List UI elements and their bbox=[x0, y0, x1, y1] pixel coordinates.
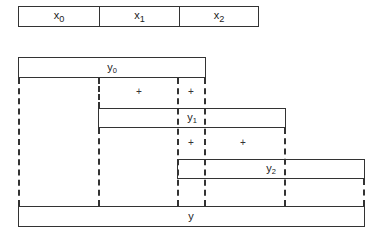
partial-label-y2: y2 bbox=[266, 163, 276, 176]
input-label-x1: x1 bbox=[134, 9, 145, 24]
prefix-sum-diagram: x0 x1 x2 y0 y1 y2 y + + + + bbox=[0, 0, 382, 238]
dashed-guide-line bbox=[177, 78, 179, 206]
partial-label-y0: y0 bbox=[107, 62, 117, 75]
partial-label-y1: y1 bbox=[187, 112, 197, 125]
plus-operator: + bbox=[136, 87, 142, 97]
dashed-guide-line bbox=[98, 78, 100, 108]
dashed-guide-line bbox=[284, 128, 286, 206]
input-cell-x2: x2 bbox=[179, 7, 258, 26]
plus-operator: + bbox=[188, 87, 194, 97]
plus-operator: + bbox=[188, 138, 194, 148]
input-label-x2: x2 bbox=[214, 9, 225, 24]
output-label-y: y bbox=[188, 211, 194, 222]
input-label-x0: x0 bbox=[54, 9, 65, 24]
dashed-guide-line bbox=[363, 179, 365, 206]
input-cell-x1: x1 bbox=[99, 7, 179, 26]
dashed-guide-line bbox=[18, 78, 20, 206]
plus-operator: + bbox=[240, 138, 246, 148]
input-row: x0 x1 x2 bbox=[18, 6, 259, 27]
dashed-guide-line bbox=[98, 128, 100, 206]
dashed-guide-line bbox=[204, 78, 206, 206]
input-cell-x0: x0 bbox=[19, 7, 99, 26]
